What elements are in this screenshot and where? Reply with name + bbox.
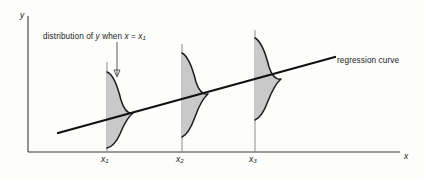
x-tick-label-1-subscript: 1 <box>105 157 108 164</box>
x-axis-label: x <box>404 152 408 160</box>
x-tick-label-3-subscript: 3 <box>253 157 256 164</box>
annotation-equals: = <box>129 32 139 41</box>
distribution-annotation-label: distribution of y when x = x1 <box>43 33 146 41</box>
regression-diagram-figure: distribution of y when x = x1 y x x1 x2 … <box>0 0 425 179</box>
x-tick-label-2-subscript: 2 <box>180 157 183 164</box>
regression-curve-label: regression curve <box>337 57 399 65</box>
annotation-mid: when <box>100 32 125 41</box>
annotation-target-subscript: 1 <box>143 35 146 41</box>
x-tick-label-1: x1 <box>101 155 109 165</box>
x-tick-label-3: x3 <box>249 155 257 165</box>
diagram-canvas <box>0 0 425 179</box>
annotation-prefix: distribution of <box>43 32 96 41</box>
y-axis-label: y <box>20 11 24 19</box>
regression-line <box>58 57 335 133</box>
x-tick-label-2: x2 <box>176 155 184 165</box>
distribution-1-fill <box>107 72 133 148</box>
